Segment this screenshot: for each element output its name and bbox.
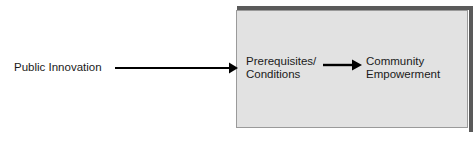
arrow-right-icon-main — [113, 60, 239, 76]
node-prerequisites-line2: Conditions — [246, 68, 300, 80]
node-label-prerequisites: Prerequisites/Conditions — [246, 55, 316, 81]
node-community-line1: Community — [366, 55, 424, 67]
arrow-right-icon-inner — [322, 57, 364, 73]
node-community-line2: Empowerment — [366, 68, 440, 80]
container-box-shadow-right — [469, 6, 473, 132]
label-public-innovation: Public Innovation — [14, 61, 102, 74]
diagram-canvas: Public Innovation Prerequisites/Conditio… — [0, 0, 475, 142]
node-prerequisites-line1: Prerequisites/ — [246, 55, 316, 67]
node-label-community: CommunityEmpowerment — [366, 55, 440, 81]
